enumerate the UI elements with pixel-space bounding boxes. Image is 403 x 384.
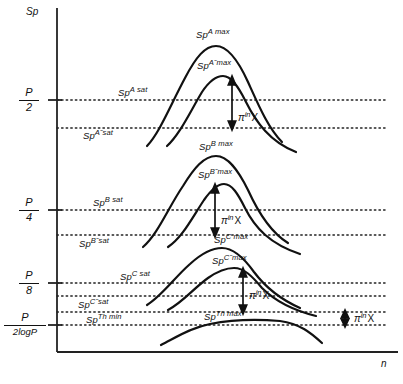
curve-label-base: Sp (214, 234, 226, 245)
fraction-denominator: 2logP (2, 326, 48, 337)
curve-label-sup: B sat (105, 195, 123, 204)
fraction-numerator: P (6, 87, 52, 100)
curve-label-base: Sp (118, 87, 130, 98)
fraction-denominator: 2 (6, 101, 52, 114)
curve-label-base: Sp (212, 255, 224, 266)
gap-arrow-group (211, 76, 348, 327)
fraction-numerator: P (6, 270, 52, 283)
curve-label-sup: B˜sat (91, 236, 109, 245)
curve-label-sup: A˜sat (95, 128, 113, 137)
curve-label-base: Sp (197, 60, 209, 71)
pi-operand: X (262, 290, 270, 301)
gap-annotation-a: πinX (238, 112, 258, 123)
fraction-denominator: 4 (6, 211, 52, 224)
curve-label-sup: C˜sat (90, 297, 109, 306)
curve-label-base: Sp (79, 238, 91, 249)
curve-sp-th-max (161, 320, 322, 345)
pi-superscript: in (245, 110, 251, 119)
gap-annotation-c: πinX (249, 290, 269, 301)
curve-label-sp-b-sat: SpB sat (93, 198, 123, 208)
fraction-denominator: 8 (6, 284, 52, 297)
curve-label-sp-c-max: SpC max (214, 235, 248, 245)
y-axis-label: Sp (26, 6, 38, 17)
pi-operand: X (367, 313, 375, 324)
curve-label-sp-c-sat: SpC sat (120, 272, 150, 282)
curve-label-sp-c-tilde-max: SpC˜max (212, 256, 247, 266)
figure-container: Sp n P 2 P 4 P 8 P 2logP SpA max SpA˜max… (0, 0, 403, 384)
curve-label-base: Sp (198, 169, 210, 180)
curve-label-sp-b-tilde-max: SpB˜max (198, 170, 232, 180)
gap-annotation-th: πinX (354, 313, 374, 324)
curve-label-base: Sp (196, 29, 208, 40)
curve-label-sup: Th min (98, 312, 122, 321)
curve-label-sup: B max (211, 139, 233, 148)
curve-label-sp-a-sat: SpA sat (118, 88, 147, 98)
plot-canvas (0, 0, 403, 384)
curve-label-base: Sp (120, 271, 132, 282)
curve-label-sup: C max (226, 232, 248, 241)
curve-label-sp-th-max: SpTh max (204, 312, 242, 322)
pi-symbol: π (249, 290, 256, 301)
curve-label-base: Sp (204, 311, 216, 322)
gap-arrow-c (239, 268, 246, 314)
curve-label-sp-a-max: SpA max (196, 30, 230, 40)
gap-arrow-a (228, 76, 235, 130)
curve-label-base: Sp (199, 141, 211, 152)
curve-label-sup: A sat (130, 85, 148, 94)
curve-label-sp-a-tilde-max: SpA˜max (197, 61, 231, 71)
x-axis-label: n (381, 358, 387, 369)
pi-superscript: in (228, 213, 234, 222)
curve-label-sp-b-max: SpB max (199, 142, 233, 152)
pi-superscript: in (256, 288, 262, 297)
fraction-numerator: P (2, 312, 48, 325)
curve-label-base: Sp (86, 314, 98, 325)
pi-operand: X (251, 112, 259, 123)
y-tick-label-p-over-4: P 4 (6, 197, 52, 223)
y-tick-label-p-over-8: P 8 (6, 270, 52, 296)
fraction-numerator: P (6, 197, 52, 210)
curve-label-sp-b-tilde-sat: SpB˜sat (79, 239, 109, 249)
curve-label-sp-c-tilde-sat: SpC˜sat (78, 300, 108, 310)
curve-label-sup: C sat (132, 269, 150, 278)
pi-superscript: in (361, 311, 367, 320)
curve-label-sup: Th max (216, 309, 242, 318)
curve-label-sup: A max (208, 27, 230, 36)
curve-label-sup: B˜max (210, 167, 232, 176)
curve-label-sup: C˜max (224, 253, 247, 262)
curve-label-base: Sp (93, 197, 105, 208)
curve-label-base: Sp (78, 299, 90, 310)
y-tick-label-p-over-2: P 2 (6, 87, 52, 113)
pi-operand: X (234, 215, 242, 226)
gap-annotation-b: πinX (221, 215, 241, 226)
curve-label-base: Sp (83, 130, 95, 141)
curve-label-sp-a-tilde-sat: SpA˜sat (83, 131, 113, 141)
pi-symbol: π (221, 215, 228, 226)
pi-symbol: π (238, 112, 245, 123)
y-tick-label-p-over-2logp: P 2logP (2, 312, 48, 337)
curve-label-sp-th-min: SpTh min (86, 315, 122, 325)
curve-label-sup: A˜max (209, 58, 231, 67)
pi-symbol: π (354, 313, 361, 324)
